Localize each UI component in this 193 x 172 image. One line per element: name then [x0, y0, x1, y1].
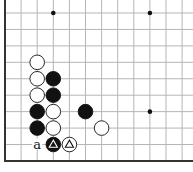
white-stone — [30, 55, 45, 70]
go-board: a — [0, 0, 193, 172]
white-stone — [62, 137, 77, 152]
black-stone — [46, 137, 61, 152]
white-stone — [46, 104, 61, 119]
black-stone — [46, 71, 61, 86]
star-point — [148, 109, 153, 114]
point-label: a — [33, 137, 41, 152]
black-stone — [78, 104, 93, 119]
white-stone — [46, 121, 61, 136]
black-stone — [46, 88, 61, 103]
star-point — [148, 11, 153, 16]
white-stone — [94, 121, 109, 136]
white-stone — [30, 71, 45, 86]
white-stone — [30, 88, 45, 103]
star-point — [51, 11, 56, 16]
black-stone — [30, 104, 45, 119]
black-stone — [30, 121, 45, 136]
labels-layer: a — [32, 137, 42, 152]
